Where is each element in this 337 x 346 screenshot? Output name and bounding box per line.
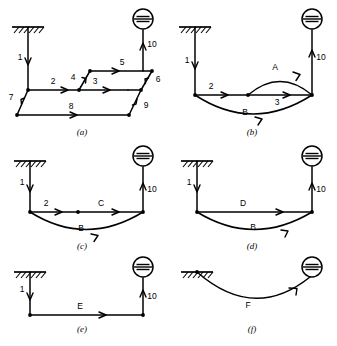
tank-symbol-c bbox=[133, 146, 153, 166]
node-dot bbox=[246, 93, 250, 97]
node-dot bbox=[141, 210, 145, 214]
panel-d: 1 D B 10 (d) bbox=[181, 146, 326, 251]
panel-caption-b: (b) bbox=[247, 127, 258, 137]
panel-caption-a: (a) bbox=[77, 127, 88, 137]
edge-label-c-B: B bbox=[78, 223, 84, 233]
panel-e: 1 E 10 (e) bbox=[14, 257, 157, 334]
tank-symbol-a bbox=[133, 9, 153, 29]
edge-label-d-10: 10 bbox=[316, 184, 326, 194]
edge-label-a-5: 5 bbox=[120, 57, 125, 67]
panel-caption-c: (c) bbox=[77, 241, 87, 251]
edge-label-a-7: 7 bbox=[9, 92, 14, 102]
node-dot bbox=[310, 210, 314, 214]
node-dot bbox=[150, 69, 154, 73]
edge-label-b-3: 3 bbox=[275, 97, 280, 107]
edge-label-d-D: D bbox=[240, 198, 246, 208]
node-dot bbox=[88, 69, 92, 73]
edge-label-b-2: 2 bbox=[209, 81, 214, 91]
node-dot bbox=[26, 88, 30, 92]
node-dot bbox=[15, 113, 19, 117]
node-dot bbox=[28, 313, 32, 317]
edge-label-c-C: C bbox=[98, 198, 104, 208]
edge-label-d-B: B bbox=[250, 222, 256, 232]
panel-caption-f: (f) bbox=[248, 324, 257, 334]
tank-symbol-e bbox=[133, 257, 153, 277]
panel-f: F (f) bbox=[181, 257, 322, 334]
edge-label-b-1: 1 bbox=[185, 55, 190, 65]
tank-symbol-f bbox=[302, 257, 322, 277]
node-dot bbox=[195, 210, 199, 214]
edge-label-a-3: 3 bbox=[93, 76, 98, 86]
node-dot bbox=[76, 210, 80, 214]
node-dot bbox=[141, 313, 145, 317]
edge-label-a-1: 1 bbox=[18, 52, 23, 62]
edge-label-a-9: 9 bbox=[144, 100, 149, 110]
edge-label-e-E: E bbox=[77, 301, 83, 311]
edge-label-b-A: A bbox=[272, 62, 278, 72]
node-dot bbox=[195, 270, 199, 274]
edge-label-a-4: 4 bbox=[71, 72, 76, 82]
edge-label-e-1: 1 bbox=[20, 284, 25, 294]
node-dot bbox=[127, 113, 131, 117]
edge-label-e-10: 10 bbox=[147, 291, 157, 301]
node-dot bbox=[139, 88, 143, 92]
edge-label-c-2: 2 bbox=[44, 198, 49, 208]
panel-b: 1 2 3 A B 10 (b) bbox=[179, 9, 326, 137]
edge-label-c-1: 1 bbox=[20, 177, 25, 187]
node-dot bbox=[193, 93, 197, 97]
figure-root: 1 2 3 4 5 6 7 bbox=[0, 0, 337, 346]
edge-label-a-2: 2 bbox=[51, 76, 56, 86]
edge-label-b-10: 10 bbox=[316, 52, 326, 62]
panel-caption-e: (e) bbox=[77, 324, 87, 334]
edge-label-f-F: F bbox=[245, 300, 250, 310]
tank-symbol-b bbox=[302, 9, 322, 29]
node-dot bbox=[28, 210, 32, 214]
edge-label-a-6: 6 bbox=[156, 74, 161, 84]
edge-label-b-B: B bbox=[242, 107, 248, 117]
edge-label-c-10: 10 bbox=[147, 184, 157, 194]
panel-caption-d: (d) bbox=[247, 241, 258, 251]
tank-symbol-d bbox=[302, 146, 322, 166]
edge-label-a-10: 10 bbox=[147, 39, 157, 49]
panel-a: 1 2 3 4 5 6 7 bbox=[9, 9, 161, 137]
node-dot bbox=[310, 93, 314, 97]
edge-label-d-1: 1 bbox=[187, 177, 192, 187]
edge-label-a-8: 8 bbox=[69, 101, 74, 111]
node-dot bbox=[77, 88, 81, 92]
panel-c: 1 2 C B 10 (c) bbox=[14, 146, 157, 251]
figure-svg: 1 2 3 4 5 6 7 bbox=[0, 0, 337, 346]
